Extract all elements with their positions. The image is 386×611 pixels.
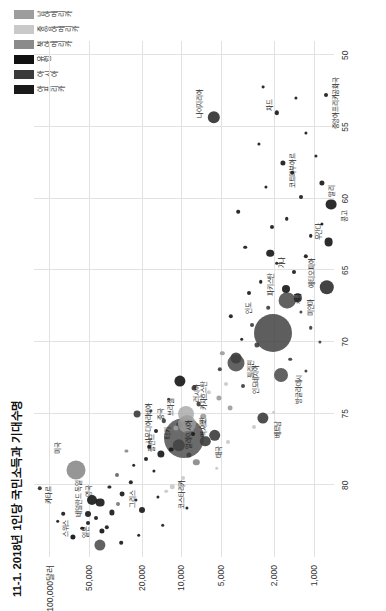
y-axis-tick-label: 20,000 (137, 565, 147, 591)
data-point (257, 143, 260, 146)
data-point-케냐 (282, 285, 290, 293)
data-point-이란 (209, 429, 221, 441)
gridline-horizontal (221, 41, 222, 557)
data-point (318, 340, 321, 343)
data-point-label: 에티오피아 (306, 258, 316, 287)
data-point-label: 카자흐스탄 (198, 381, 208, 410)
data-point (299, 310, 302, 313)
gridline-horizontal (89, 41, 90, 557)
data-point (108, 485, 111, 488)
data-point-label: 브라질 (165, 398, 175, 415)
data-point (243, 246, 247, 250)
y-axis-tick-label: 100,000달러 (43, 565, 55, 611)
data-point-label: 터키 (162, 427, 172, 439)
legend-label: 중앙아메리카 (37, 25, 79, 35)
data-point (240, 337, 244, 341)
data-point-label: 중국 (155, 408, 165, 420)
data-point (226, 440, 230, 444)
data-point (215, 466, 219, 470)
data-point-일본 (95, 540, 106, 551)
data-point-러시아 (175, 375, 186, 386)
data-point (266, 306, 270, 310)
data-point-label: 가나 (276, 257, 286, 269)
data-point (186, 507, 189, 510)
data-point (125, 449, 128, 452)
data-point-label: 독일 (73, 480, 83, 492)
data-point (161, 524, 165, 528)
data-point (224, 382, 228, 386)
data-point-label: 영국 (83, 485, 93, 497)
data-point (132, 464, 136, 468)
data-point-코스타리카 (170, 485, 174, 489)
data-point-label: 그리스 (127, 491, 137, 508)
data-point-그리스 (139, 507, 145, 513)
data-point (56, 519, 60, 523)
data-point (86, 521, 90, 525)
data-point-label: 나이지리아 (194, 89, 204, 118)
y-axis-tick-label: 50,000 (84, 565, 94, 591)
x-axis-tick-label: 80 (340, 481, 350, 490)
data-point-label: 코트디부아르 (287, 153, 297, 188)
y-axis-tick-label: 10,000 (176, 565, 186, 591)
legend-item[interactable]: 중앙아메리카 (14, 25, 79, 35)
data-point (250, 323, 254, 327)
data-point (247, 291, 251, 295)
data-point (120, 492, 125, 497)
legend-label: 남아메리카 (37, 10, 72, 20)
data-point-label: 일본 (80, 526, 90, 538)
page-title: 11-1. 2018년 1인당 국민소득과 기대수명 (8, 400, 24, 597)
legend-item[interactable]: 남아메리카 (14, 10, 72, 20)
data-point-폴란드 (158, 450, 165, 457)
data-point (304, 369, 307, 372)
data-point (241, 384, 245, 388)
data-point-label: 필리핀 (245, 361, 255, 378)
legend-swatch (14, 26, 34, 35)
data-point-label: 스위스 (60, 520, 70, 537)
data-point (262, 86, 265, 89)
data-point (304, 131, 307, 134)
data-point (229, 314, 233, 318)
data-point (144, 458, 148, 462)
data-point-영국 (95, 498, 104, 507)
data-point-label: 이란 (197, 418, 207, 430)
data-point-label: 베트남 (272, 421, 282, 438)
data-point (227, 406, 232, 411)
x-axis-tick-label: 75 (340, 409, 350, 418)
data-point (137, 534, 141, 538)
data-point-label: 네덜란드 (73, 493, 83, 516)
data-point-미국 (66, 460, 85, 479)
data-point (156, 495, 159, 498)
data-point (164, 489, 168, 493)
data-point (309, 326, 313, 330)
y-axis-tick-label: 2,000 (269, 565, 279, 586)
legend-swatch (14, 11, 34, 20)
gridline-vertical (34, 126, 334, 127)
data-point-말리 (319, 180, 324, 185)
data-point (254, 342, 259, 347)
data-point-label: 태국 (213, 446, 223, 458)
data-point (299, 195, 303, 199)
data-point (154, 429, 158, 433)
data-point-베트남 (258, 412, 269, 423)
gridline-vertical (34, 198, 334, 199)
data-point-label: 중앙아프리카공화국 (330, 77, 340, 129)
data-point-우간다 (324, 237, 333, 246)
data-point-에티오피아 (320, 280, 334, 294)
data-point-label: 카타르 (43, 486, 53, 503)
data-point-label: 콩고 (339, 210, 349, 222)
gridline-vertical (34, 269, 334, 270)
data-point (168, 447, 173, 452)
data-point (292, 270, 296, 274)
plot-area: 80757065605550 1,0002,0005,00010,00020,0… (34, 41, 334, 557)
data-point-label: 파키스탄 (265, 273, 275, 296)
data-point-네덜란드 (85, 511, 91, 517)
data-point-코트디부아르 (280, 160, 285, 165)
data-point-label: 미얀마 (305, 299, 315, 316)
data-point-label: 차드 (264, 99, 274, 111)
data-point-가나 (266, 249, 274, 257)
x-axis-tick-label: 70 (340, 337, 350, 346)
data-point-나이지리아 (207, 111, 219, 123)
x-axis-tick-label: 55 (340, 122, 350, 131)
legend-swatch (14, 56, 34, 65)
data-point (119, 541, 123, 545)
